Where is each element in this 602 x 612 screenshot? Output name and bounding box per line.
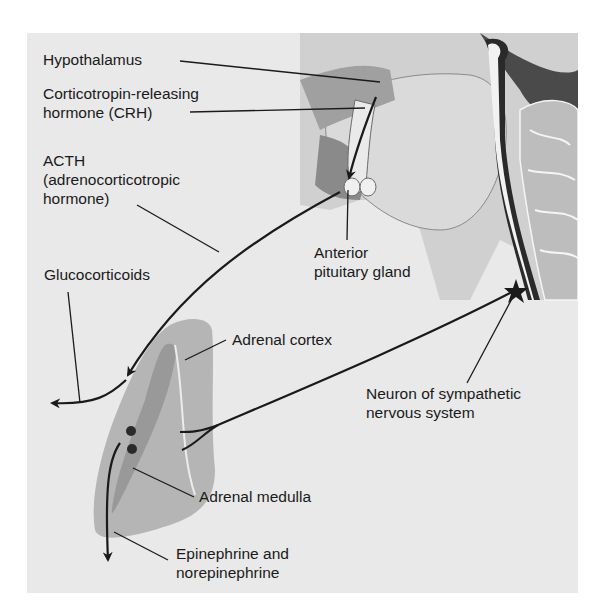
- label-epi-line2: norepinephrine: [176, 563, 279, 582]
- label-acth-line1: ACTH: [43, 151, 85, 170]
- label-anterior-pituitary-line2: pituitary gland: [314, 262, 411, 281]
- label-acth-line3: hormone): [43, 189, 109, 208]
- label-glucocorticoids: Glucocorticoids: [44, 265, 150, 284]
- label-crh-line2: hormone (CRH): [43, 103, 152, 122]
- label-crh-line1: Corticotropin-releasing: [43, 84, 199, 103]
- adrenal-gland: [94, 319, 215, 538]
- synapse-terminal-icon: [127, 444, 137, 454]
- label-hypothalamus: Hypothalamus: [43, 50, 142, 69]
- label-neuron-line1: Neuron of sympathetic: [366, 384, 521, 403]
- label-neuron-line2: nervous system: [366, 403, 475, 422]
- label-adrenal-medulla: Adrenal medulla: [199, 487, 311, 506]
- label-epi-line1: Epinephrine and: [176, 544, 289, 563]
- synapse-terminal-icon: [126, 426, 136, 436]
- label-adrenal-cortex: Adrenal cortex: [232, 330, 332, 349]
- label-anterior-pituitary-line1: Anterior: [314, 243, 368, 262]
- label-acth-line2: (adrenocorticotropic: [43, 170, 180, 189]
